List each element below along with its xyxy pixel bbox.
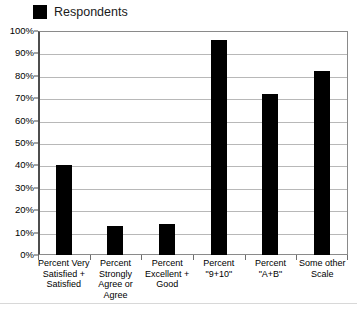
gridline [40, 54, 347, 55]
x-axis-category-label-line: "A+B" [245, 269, 297, 280]
x-axis-category-label-line: "9+10" [193, 269, 245, 280]
y-tick-label: 90% [15, 48, 34, 58]
x-axis-category-label-line: Some other [296, 258, 348, 269]
x-axis-category-label-line: Percent [245, 258, 297, 269]
y-tick-label: 100% [10, 26, 34, 36]
x-axis-category-label-line: Percent Very [38, 258, 90, 269]
x-axis-category-label-line: Satisfied + [38, 269, 90, 280]
chart-legend: Respondents [33, 3, 128, 21]
gridline [40, 166, 347, 167]
gridlines [40, 32, 347, 254]
legend-swatch-respondents [33, 5, 47, 19]
y-tick-label: 70% [15, 93, 34, 103]
x-axis-category-label: Percent VerySatisfied +Satisfied [38, 258, 90, 290]
gridline [40, 211, 347, 212]
gridline [40, 99, 347, 100]
x-axis-category-label-line: Scale [296, 269, 348, 280]
x-axis-category-label: Percent"9+10" [193, 258, 245, 279]
y-tick-label: 10% [15, 228, 34, 238]
x-axis-category-label-line: Agree or [90, 279, 142, 290]
scan-artifact-line [0, 303, 357, 304]
gridline [40, 234, 347, 235]
y-tick-label: 40% [15, 160, 34, 170]
x-axis-category-label: Some otherScale [296, 258, 348, 279]
y-tick-label: 60% [15, 116, 34, 126]
x-axis-category-label-line: Good [141, 279, 193, 290]
gridline [40, 144, 347, 145]
y-tick-label: 20% [15, 205, 34, 215]
x-axis-category-label-line: Strongly [90, 269, 142, 280]
legend-label-respondents: Respondents [54, 5, 128, 19]
bar-chart: Respondents 100%90%80%70%60%50%40%30%20%… [0, 0, 357, 310]
x-axis-category-label-line: Agree [90, 290, 142, 301]
x-axis-category-label: PercentExcellent +Good [141, 258, 193, 290]
gridline [40, 122, 347, 123]
x-axis-category-label-line: Satisfied [38, 279, 90, 290]
x-axis-category-label: Percent"A+B" [245, 258, 297, 279]
y-tick-label: 0% [20, 250, 34, 260]
x-axis-category-label-line: Percent [193, 258, 245, 269]
plot-area [38, 31, 348, 255]
y-tick-label: 50% [15, 138, 34, 148]
gridline [40, 77, 347, 78]
gridline [40, 189, 347, 190]
x-axis-category-label: PercentStronglyAgree orAgree [90, 258, 142, 300]
x-axis-category-label-line: Excellent + [141, 269, 193, 280]
x-axis-labels: Percent VerySatisfied +SatisfiedPercentS… [38, 258, 348, 304]
y-tick-label: 30% [15, 183, 34, 193]
y-axis: 100%90%80%70%60%50%40%30%20%10%0% [0, 31, 34, 255]
x-axis-category-label-line: Percent [90, 258, 142, 269]
x-axis-category-label-line: Percent [141, 258, 193, 269]
y-tick-label: 80% [15, 71, 34, 81]
